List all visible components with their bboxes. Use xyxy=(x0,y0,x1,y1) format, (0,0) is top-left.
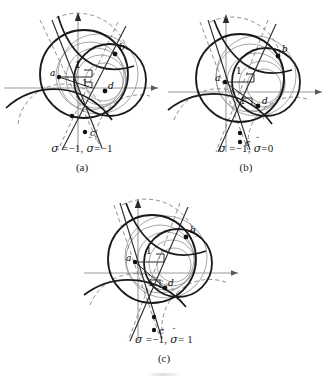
point-label-d: d xyxy=(168,278,174,288)
sigma-symbol: σ xyxy=(219,142,227,155)
figure-three-panel-diagram: a b c d 1 1 σ =−1, ˘σ=−1 (a) xyxy=(0,0,328,382)
measure-label-1a: 1 xyxy=(75,60,81,70)
breve-accent-icon: ˘ xyxy=(172,326,175,335)
point-markers-group xyxy=(57,52,118,135)
measure-label-1a: 1 xyxy=(146,246,152,256)
sigma-value: =−1, xyxy=(229,142,250,154)
panel-a: a b c d 1 1 σ =−1, ˘σ=−1 (a) xyxy=(0,0,164,191)
sigma-symbol: σ xyxy=(135,333,143,346)
point-label-b: b xyxy=(282,44,288,54)
sigma-breve-group: ˘σ xyxy=(86,142,94,155)
point-label-b: b xyxy=(190,225,196,235)
measure-label-1b: 1 xyxy=(82,78,88,88)
point-label-a: a xyxy=(50,68,55,78)
breve-accent-icon: ˘ xyxy=(89,135,92,144)
breve-accent-icon: ˘ xyxy=(256,135,259,144)
axes-group xyxy=(4,12,158,150)
point-label-a: a xyxy=(215,73,220,83)
sigma-value: =−1, xyxy=(62,142,83,154)
panel-b-diagram: a b c d 1 1 xyxy=(164,0,328,158)
point-label-b: b xyxy=(119,42,125,52)
panel-b: a b c d 1 1 σ =−1, ˘σ=0 (b) xyxy=(164,0,328,191)
measure-label-1b: 1 xyxy=(148,278,154,288)
panel-c-caption-math: σ =−1, ˘σ= 1 xyxy=(82,333,246,346)
dashed-arcs-group xyxy=(90,199,228,341)
measure-label-1b: 1 xyxy=(240,96,246,106)
point-label-a: a xyxy=(126,253,131,263)
dashed-arcs-group xyxy=(174,17,310,152)
point-label-d: d xyxy=(108,81,114,91)
sigma-symbol: σ xyxy=(51,142,59,155)
panel-a-diagram: a b c d 1 1 xyxy=(0,0,164,158)
page-edge-artifact xyxy=(146,373,180,376)
panel-c-diagram: a b c d 1 1 xyxy=(82,191,246,349)
sigma-breve-value: = 1 xyxy=(178,333,193,345)
sigma-breve-group: ˘σ xyxy=(170,333,178,346)
panel-b-caption-math: σ =−1, ˘σ=0 xyxy=(164,142,328,155)
point-label-d: d xyxy=(262,96,268,106)
panel-b-label: (b) xyxy=(164,161,328,173)
bold-circles-group xyxy=(108,215,212,303)
panel-c-label: (c) xyxy=(82,352,246,364)
panel-a-label: (a) xyxy=(0,161,164,173)
panel-a-caption-math: σ =−1, ˘σ=−1 xyxy=(0,142,164,155)
measure-label-1a: 1 xyxy=(236,66,242,76)
straight-lines-group xyxy=(52,20,126,150)
sigma-breve-value: =−1 xyxy=(94,142,113,154)
sigma-value: =−1, xyxy=(146,333,167,345)
sigma-breve-group: ˘σ xyxy=(254,142,262,155)
panel-c: a b c d 1 1 σ =−1, ˘σ= 1 (c) xyxy=(82,191,246,382)
sigma-breve-value: =0 xyxy=(261,142,273,154)
